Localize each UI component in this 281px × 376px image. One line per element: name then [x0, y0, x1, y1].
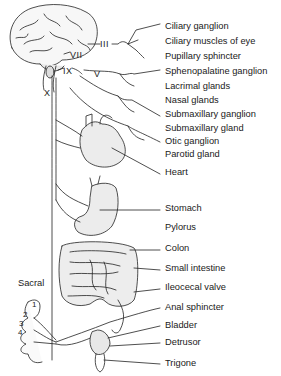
- sacrum-illustration: [21, 300, 160, 363]
- organ-label: Anal sphincter: [165, 302, 224, 312]
- organ-label: Bladder: [165, 320, 197, 330]
- stomach-illustration: [56, 176, 160, 235]
- organ-label: Detrusor: [165, 337, 201, 347]
- organ-label: Ileocecal valve: [165, 282, 226, 292]
- organ-label: Stomach: [165, 203, 202, 213]
- nerve-label-VII: VII: [70, 50, 83, 60]
- organ-label: Sphenopalatine ganglion: [165, 66, 267, 76]
- nerve-label-V: V: [94, 69, 101, 79]
- organ-label: Nasal glands: [165, 95, 219, 105]
- sacral-label: Sacral: [18, 278, 44, 288]
- intestines-illustration: [59, 242, 160, 333]
- organ-label: Otic ganglion: [165, 136, 219, 146]
- organ-label: Submaxillary ganglion: [165, 109, 256, 119]
- bladder-illustration: [90, 326, 160, 372]
- organ-label: Parotid gland: [165, 149, 220, 159]
- organ-label: Colon: [165, 243, 189, 253]
- organ-label: Submaxillary gland: [165, 123, 244, 133]
- organ-label: Lacrimal glands: [165, 81, 230, 91]
- nerve-label-X: X: [44, 88, 51, 98]
- nerve-label-III: III: [100, 39, 109, 49]
- nerve-label-IX: IX: [63, 66, 73, 76]
- organ-label: Small intestine: [165, 263, 225, 273]
- sacral-segment-1: 1: [32, 300, 37, 310]
- heart-illustration: [56, 114, 160, 174]
- organ-label: Heart: [165, 167, 188, 177]
- organ-label: Pylorus: [165, 222, 196, 232]
- organ-label: Pupillary sphincter: [165, 51, 241, 61]
- sacral-segment-4: 4: [18, 328, 23, 338]
- organ-label: Ciliary ganglion: [165, 21, 229, 31]
- organ-label: Ciliary muscles of eye: [165, 36, 255, 46]
- organ-label: Trigone: [165, 358, 196, 368]
